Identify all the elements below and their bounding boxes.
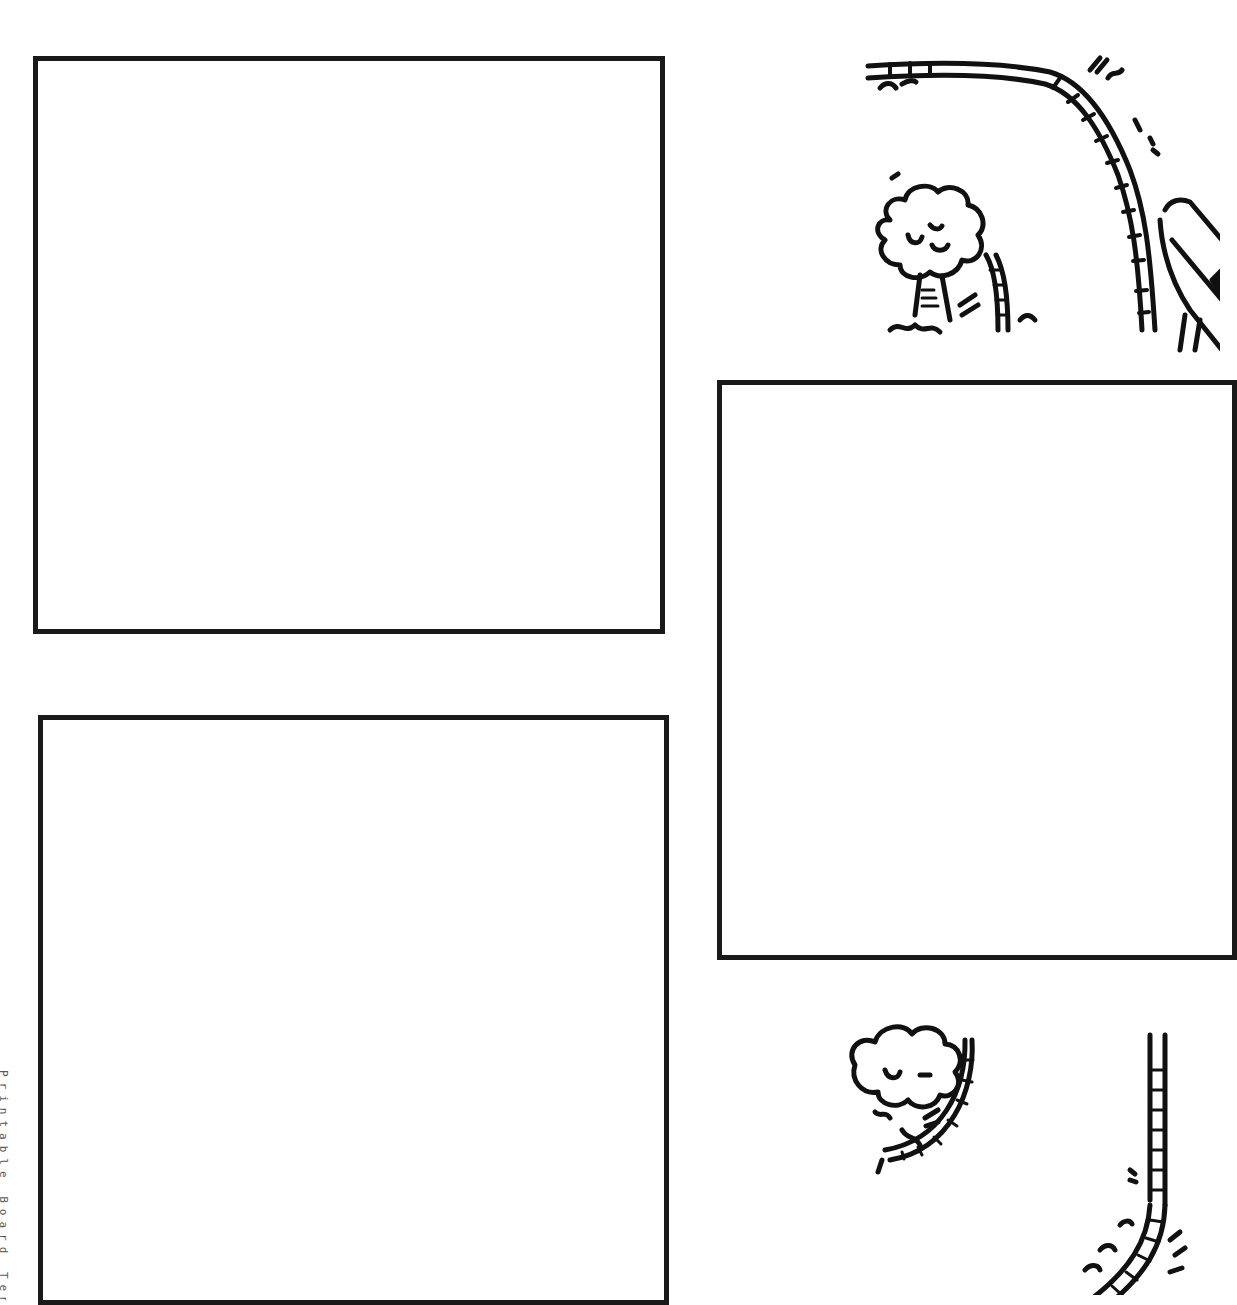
panel-right-middle [717,380,1237,960]
credit-text: Printable Board Template © 200 [0,1070,12,1300]
tree-and-ladder-icon [830,1010,1220,1295]
tree-and-curved-ladder-slide-icon [850,50,1220,360]
credit-label: Printable Board Template © 200 [0,1070,10,1084]
panel-bottom-left [38,715,669,1305]
panel-top-left [33,56,665,634]
